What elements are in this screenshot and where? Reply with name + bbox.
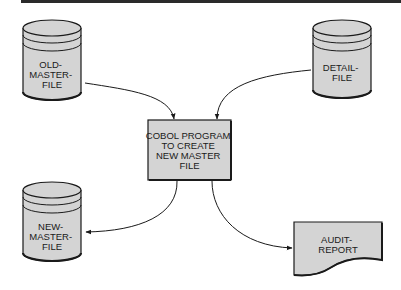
cobol-program-box: COBOL PROGRAM TO CREATE NEW MASTER FILE [146,120,233,180]
flow-diagram: OLD- MASTER- FILE DETAIL- FILE COBOL PRO… [0,0,401,290]
edge-program-to-audit-report [212,181,292,248]
audit-report-document: AUDIT- REPORT [294,222,382,275]
new-master-file-cylinder: NEW- MASTER- FILE [23,182,81,261]
edge-old-master-to-program [85,83,174,119]
edge-program-to-new-master [86,181,177,232]
top-border-bar [21,0,401,3]
audit-report-label: AUDIT- REPORT [318,234,358,255]
edge-detail-to-program [217,70,311,119]
detail-file-cylinder: DETAIL- FILE [313,20,371,98]
old-master-file-cylinder: OLD- MASTER- FILE [23,20,81,100]
